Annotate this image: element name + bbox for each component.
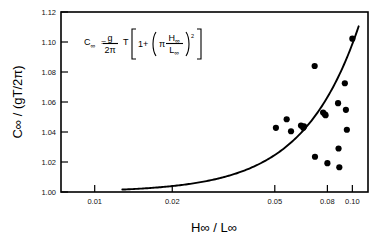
- chart-canvas: C∞ = g 2π T 1+ π H∞ L∞ 2 1.001.021.041.: [0, 0, 392, 239]
- eq-exponent: 2: [191, 33, 194, 39]
- x-tick-label: 0.08: [320, 197, 335, 206]
- equation-annotation: C∞ = g 2π T 1+ π H∞ L∞ 2: [84, 29, 201, 59]
- eq-inner-denominator: L∞: [169, 45, 179, 56]
- y-tick-label: 1.02: [41, 158, 56, 167]
- data-point-marker: [312, 154, 318, 160]
- data-point-marker: [349, 36, 355, 42]
- x-axis-title: H∞ / L∞: [191, 220, 237, 235]
- data-point-marker: [301, 123, 307, 129]
- data-point-marker: [344, 127, 350, 133]
- eq-paren-open: [153, 32, 156, 56]
- x-tick-label: 0.01: [87, 197, 102, 206]
- data-point-marker: [322, 112, 328, 118]
- data-point-marker: [335, 100, 341, 106]
- y-tick-label: 1.12: [41, 8, 56, 17]
- data-point-marker: [336, 164, 342, 170]
- y-tick-label: 1.00: [41, 188, 56, 197]
- data-point-marker: [335, 145, 341, 151]
- x-axis-ticks: 0.010.020.050.080.10: [87, 185, 359, 206]
- data-point-marker: [342, 80, 348, 86]
- x-tick-label: 0.05: [267, 197, 282, 206]
- y-axis-ticks: 1.001.021.041.061.081.101.12: [41, 8, 68, 197]
- eq-bracket-open: [132, 29, 136, 59]
- y-tick-label: 1.10: [41, 38, 56, 47]
- eq-inner-numerator: H∞: [168, 33, 180, 44]
- y-tick-label: 1.08: [41, 68, 56, 77]
- eq-pi-symbol: π: [159, 39, 165, 49]
- data-point-marker: [273, 125, 279, 131]
- x-tick-label: 0.10: [345, 197, 360, 206]
- y-tick-label: 1.06: [41, 98, 56, 107]
- y-tick-label: 1.04: [41, 128, 56, 137]
- data-point-marker: [288, 128, 294, 134]
- eq-bracket-close: [197, 29, 201, 59]
- eq-frac-numerator: g: [107, 33, 112, 43]
- eq-period-symbol: T: [123, 37, 129, 47]
- data-point-marker: [324, 160, 330, 166]
- x-tick-label: 0.02: [165, 197, 180, 206]
- y-axis-title: C∞ / (gT/2π): [10, 65, 25, 138]
- eq-lhs: C∞: [84, 37, 96, 49]
- data-point-marker: [312, 63, 318, 69]
- data-point-marker: [343, 107, 349, 113]
- scatter-data-points: [273, 36, 356, 171]
- data-point-marker: [284, 116, 290, 122]
- eq-paren-close: [186, 32, 189, 56]
- figure-container: C∞ = g 2π T 1+ π H∞ L∞ 2 1.001.021.041.: [0, 0, 392, 239]
- theory-curve-line: [122, 26, 358, 189]
- eq-frac-denominator: 2π: [104, 45, 115, 55]
- eq-one-plus: 1+: [138, 39, 148, 49]
